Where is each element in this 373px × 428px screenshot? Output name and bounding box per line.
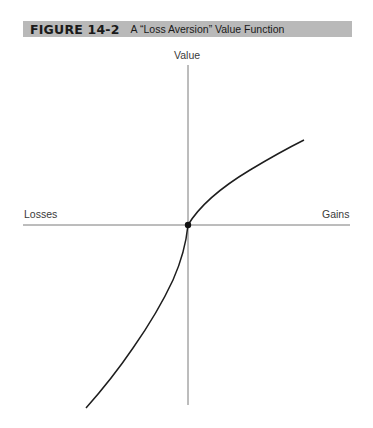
value-function-plot	[0, 0, 373, 428]
origin-dot	[185, 222, 191, 228]
gains-curve	[188, 140, 304, 225]
losses-curve	[86, 225, 188, 408]
